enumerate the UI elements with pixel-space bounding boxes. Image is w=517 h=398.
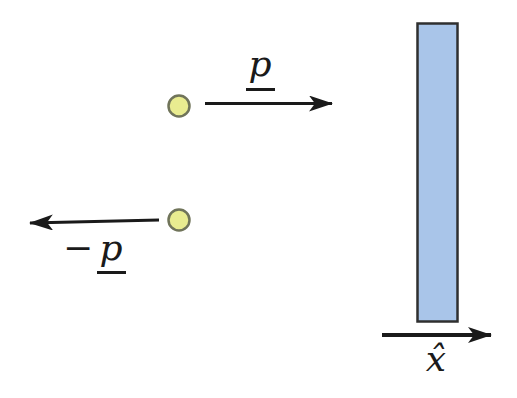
x-axis-label: x̂ (426, 338, 446, 379)
particle-top (169, 96, 190, 117)
wall-rectangle (418, 24, 458, 322)
momentum-diagram: x̂ p − p (0, 0, 517, 398)
momentum-right-label: p (248, 43, 271, 84)
particle-bottom (169, 210, 190, 231)
momentum-left-label: p (99, 227, 122, 268)
figure-canvas: x̂ p − p (0, 0, 517, 398)
minus-sign: − (63, 227, 93, 268)
